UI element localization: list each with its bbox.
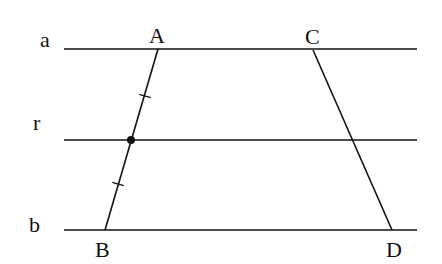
- line-label-a: a: [40, 27, 50, 52]
- parallel-lines-diagram: a r b A B C D: [0, 0, 442, 264]
- midpoint-dot: [127, 136, 135, 144]
- line-label-b: b: [29, 212, 40, 237]
- parallel-lines: [64, 49, 417, 230]
- points: [127, 136, 135, 144]
- point-label-d: D: [386, 237, 402, 262]
- point-label-c: C: [305, 24, 320, 49]
- point-label-a: A: [149, 23, 165, 48]
- point-label-b: B: [95, 237, 110, 262]
- line-label-r: r: [33, 110, 41, 135]
